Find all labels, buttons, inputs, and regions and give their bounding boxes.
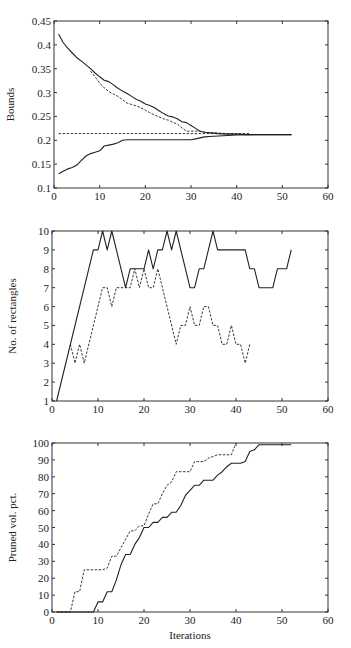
y-tick-label: 10 [38, 589, 50, 601]
series-line-solid [59, 135, 292, 174]
y-tick-label: 0.3 [37, 87, 51, 99]
pruned-volume-chart: 01020304050600102030405060708090100Prune… [6, 437, 334, 641]
y-tick-label: 0.4 [37, 39, 51, 51]
x-tick-label: 60 [323, 190, 335, 202]
y-tick-label: 0.25 [32, 110, 52, 122]
y-tick-label: 0.15 [32, 158, 52, 170]
x-tick-label: 10 [93, 403, 105, 415]
x-tick-label: 10 [93, 614, 105, 626]
x-tick-label: 40 [231, 190, 243, 202]
y-tick-label: 4 [44, 338, 50, 350]
y-tick-label: 30 [38, 555, 50, 567]
y-tick-label: 70 [38, 488, 50, 500]
series-line-dashed [91, 71, 251, 135]
rectangles-chart: 010203040506012345678910No. of rectangle… [6, 225, 334, 415]
x-tick-label: 0 [49, 614, 55, 626]
y-tick-label: 0 [44, 606, 50, 618]
x-tick-label: 20 [139, 403, 151, 415]
y-tick-label: 60 [38, 505, 50, 517]
iterations-axis-label: Iterations [169, 629, 211, 641]
x-tick-label: 30 [185, 403, 197, 415]
series-line-solid [57, 231, 292, 401]
figure: 01020304050600.10.150.20.250.30.350.40.4… [0, 0, 351, 648]
y-tick-label: 80 [38, 471, 50, 483]
series-line-solid [57, 445, 292, 612]
plot-frame [52, 443, 328, 612]
bounds-chart: 01020304050600.10.150.20.250.30.350.40.4… [4, 15, 334, 202]
plot-frame [52, 231, 328, 401]
y-tick-label: 7 [44, 282, 50, 294]
bounds-axis-label: Bounds [4, 88, 16, 122]
y-tick-label: 20 [38, 572, 50, 584]
x-tick-label: 50 [277, 403, 289, 415]
x-tick-label: 0 [51, 190, 57, 202]
y-tick-label: 2 [44, 376, 50, 388]
y-tick-label: 10 [38, 225, 50, 237]
y-tick-label: 0.45 [32, 15, 52, 27]
x-tick-label: 20 [139, 614, 151, 626]
x-tick-label: 30 [185, 614, 197, 626]
pruned-volume-axis-label: Pruned vol. pct. [6, 492, 18, 562]
y-tick-label: 6 [44, 301, 50, 313]
y-tick-label: 3 [44, 357, 50, 369]
y-tick-label: 0.1 [37, 182, 51, 194]
y-tick-label: 0.35 [32, 63, 52, 75]
plot-frame [54, 21, 328, 188]
rectangles-axis-label: No. of rectangles [6, 278, 18, 353]
y-tick-label: 50 [38, 522, 50, 534]
x-tick-label: 10 [94, 190, 106, 202]
x-tick-label: 60 [323, 403, 335, 415]
series-line-dashed [70, 269, 249, 363]
y-tick-label: 90 [38, 454, 50, 466]
x-tick-label: 20 [140, 190, 152, 202]
x-tick-label: 0 [49, 403, 55, 415]
x-tick-label: 50 [277, 190, 289, 202]
x-tick-label: 40 [231, 403, 243, 415]
y-tick-label: 9 [44, 244, 50, 256]
y-tick-label: 100 [33, 437, 50, 449]
x-tick-label: 60 [323, 614, 335, 626]
x-tick-label: 50 [277, 614, 289, 626]
y-tick-label: 1 [44, 395, 50, 407]
x-tick-label: 40 [231, 614, 243, 626]
y-tick-label: 0.2 [37, 134, 51, 146]
y-tick-label: 40 [38, 538, 50, 550]
series-line-solid [59, 34, 292, 135]
y-tick-label: 5 [44, 319, 50, 331]
x-tick-label: 30 [186, 190, 198, 202]
y-tick-label: 8 [44, 263, 50, 275]
